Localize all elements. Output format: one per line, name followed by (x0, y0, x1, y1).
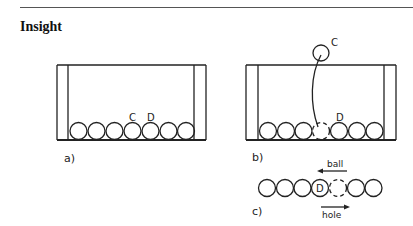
panel-a-balls (70, 123, 195, 140)
ball-arrow-head-icon (317, 169, 323, 174)
panel-b-balls (260, 123, 384, 140)
ball-hole-diagram: C D a) C D b) D ball hole c) (0, 0, 413, 226)
label-a-c: C (129, 112, 136, 123)
panel-b-container (246, 65, 396, 140)
panel-a-container (57, 65, 206, 140)
label-hole: hole (322, 210, 342, 220)
hole-arrow-head-icon (344, 205, 350, 210)
label-panel-a: a) (64, 152, 75, 165)
ball-c-lifted (313, 45, 329, 61)
hole-circle-c (330, 180, 347, 197)
label-b-d: D (336, 112, 344, 123)
label-c-d: D (316, 183, 324, 194)
label-panel-c: c) (252, 205, 262, 218)
hole-circle (313, 123, 330, 140)
trajectory-curve (312, 55, 321, 127)
label-b-c: C (331, 37, 338, 48)
label-panel-b: b) (252, 151, 263, 164)
label-a-d: D (147, 112, 155, 123)
label-ball: ball (327, 159, 343, 169)
